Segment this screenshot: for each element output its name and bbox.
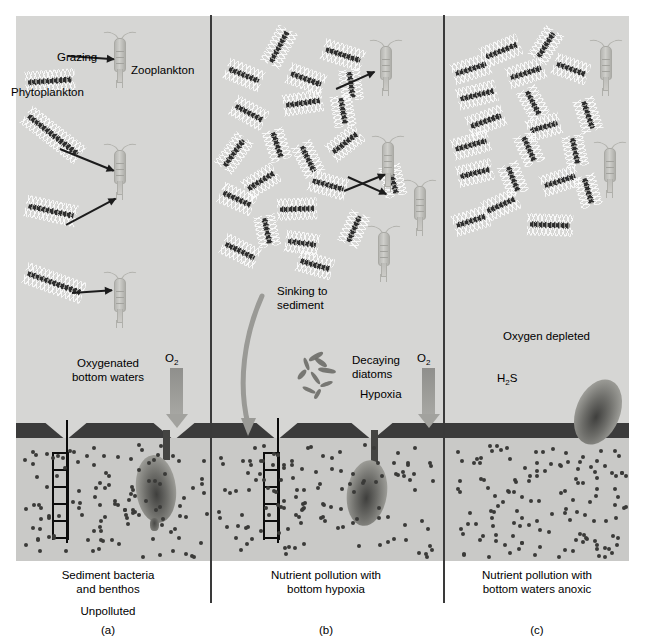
bacteria-dot [479,477,483,481]
bacteria-dot [205,512,209,516]
bacteria-dot [309,445,313,449]
bacteria-dot [576,481,580,485]
bacteria-dot [538,528,542,532]
label-sinking-line1: Sinking to [277,285,328,299]
benthic-organism-foot [150,518,159,531]
bacteria-dot [282,506,286,510]
bacteria-dot [613,503,617,507]
diatom-chain [581,101,595,129]
diatom-chain [300,258,330,272]
copepod-body [604,148,616,182]
bacteria-dot [240,513,244,517]
diatom-chain [582,178,595,205]
bacteria-dot [430,548,434,552]
bacteria-dot [472,461,476,465]
bacteria-dot [159,444,163,448]
bacteria-dot [45,452,49,456]
bacteria-dot [456,487,460,491]
caption-c-line2: bottom waters anoxic [483,582,592,596]
bacteria-dot [178,504,182,508]
bacteria-dot [173,527,177,531]
bacteria-dot [221,462,225,466]
bacteria-dot [123,508,127,512]
bacteria-dot [581,455,585,459]
bacteria-dot [271,463,275,467]
bacteria-dot [85,454,89,458]
bacteria-dot [72,450,76,454]
bacteria-dot [588,500,592,504]
bacteria-dot [527,479,531,483]
diatom-chain [286,98,321,109]
bacteria-dot [574,538,578,542]
bacteria-dot [39,506,43,510]
bacteria-dot [77,506,81,510]
bacteria-dot [513,478,517,482]
diatom-chain [290,71,322,88]
bacteria-dot [321,454,325,458]
diatom-chain [455,138,487,153]
diatom-chain [222,190,252,208]
caption-b-line1: Nutrient pollution with [271,568,381,582]
bacteria-dot [191,486,195,490]
bacteria-dot [466,522,470,526]
bacteria-dot [541,450,545,454]
copepod-body [380,46,392,80]
panel-divider-2 [443,15,445,603]
diatom-chain [288,238,317,248]
caption-a-line1: Sediment bacteria [62,568,155,582]
diatom-chain [261,218,272,245]
copepod [106,268,132,328]
bacteria-dot [402,474,406,478]
bacteria-dot [595,547,599,551]
bacteria-dot [277,531,281,535]
bacteria-dot [535,519,539,523]
bacteria-dot [403,523,407,527]
bacteria-dot [478,538,482,542]
bacteria-dot [428,544,432,548]
bacteria-dot [520,495,524,499]
bacteria-dot [86,538,90,542]
diatom-chain [270,132,284,159]
bacteria-dot [99,519,103,523]
burrow-tube [163,430,170,460]
bacteria-dot [549,462,553,466]
bacteria-dot [523,466,527,470]
diatom-chain [338,98,348,125]
bacteria-dot [202,459,206,463]
bacteria-dot [259,529,263,533]
bacteria-dot [517,547,521,551]
copepod [596,138,622,198]
bacteria-dot [392,537,396,541]
panel-letter-b: (b) [319,624,333,636]
label-grazing: Grazing [57,51,97,65]
bacteria-dot [286,527,290,531]
bacteria-dot [104,471,108,475]
bacteria-dot [294,513,298,517]
diatom-chain [484,42,518,60]
label-hypoxia: Hypoxia [360,388,402,402]
copepod [370,222,396,282]
sediment-surface-band [16,423,629,438]
bacteria-dot [462,552,466,556]
bacteria-dot [258,472,262,476]
bacteria-dot [192,555,196,559]
bacteria-dot [520,516,524,520]
diatom-chain [346,215,363,243]
bacteria-dot [279,478,283,482]
diatom-chain [544,173,576,189]
bacteria-dot [264,506,268,510]
bacteria-dot [475,457,479,461]
bacteria-dot [295,488,299,492]
bacteria-dot [413,446,417,450]
bacteria-dot [262,444,266,448]
diatom-chain [455,61,487,77]
bacteria-dot [245,542,249,546]
bacteria-dot [31,526,35,530]
bacteria-dot [99,529,103,533]
bacteria-dot [461,532,465,536]
bacteria-dot [599,449,603,453]
label-oxygen-depleted: Oxygen depleted [503,330,590,344]
bacteria-dot [571,549,575,553]
bacteria-dot [571,498,575,502]
bacteria-dot [236,524,240,528]
